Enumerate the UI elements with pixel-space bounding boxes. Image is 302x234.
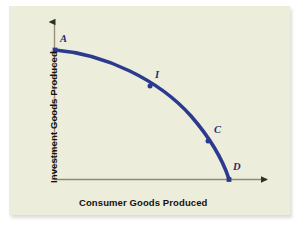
ppf-curve — [55, 50, 229, 179]
data-point-i — [148, 84, 153, 89]
y-axis-title: Investment Goods Produced — [48, 51, 59, 183]
x-axis-title: Consumer Goods Produced — [79, 197, 207, 208]
point-label-i: I — [155, 70, 159, 81]
chart-card: A I C D Investment Goods Produced Consum… — [9, 6, 290, 215]
point-label-d: D — [233, 162, 241, 173]
point-label-c: C — [214, 125, 221, 136]
data-point-d — [227, 177, 232, 182]
figure-root: A I C D Investment Goods Produced Consum… — [0, 0, 302, 234]
point-label-a: A — [60, 34, 67, 45]
data-point-c — [206, 139, 211, 144]
